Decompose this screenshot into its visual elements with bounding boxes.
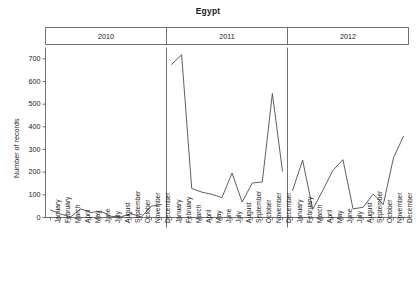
chart-axes [43, 28, 409, 228]
y-axis-title: Number of records [12, 118, 21, 178]
x-axis-tick-label: October [265, 199, 272, 222]
x-axis-tick-label: February [64, 196, 71, 222]
x-axis-tick-label: December [164, 192, 171, 222]
x-axis-tick-label: March [316, 204, 323, 222]
panel-strip-label-2011: 2011 [167, 32, 288, 41]
x-axis-tick-label: January [54, 199, 61, 222]
x-axis-tick-label: March [74, 204, 81, 222]
chart-data-lines [51, 55, 404, 217]
x-axis-tick-label: October [144, 199, 151, 222]
y-axis-tick-label: 500 [29, 99, 41, 108]
x-axis-tick-label: July [356, 211, 363, 223]
x-axis-tick-label: February [306, 196, 313, 222]
y-axis-tick-label: 700 [29, 54, 41, 63]
x-axis-tick-label: August [366, 202, 373, 223]
x-axis-tick-label: August [245, 202, 252, 223]
x-axis-tick-label: December [285, 192, 292, 222]
x-axis-tick-label: December [406, 192, 413, 222]
x-axis-tick-label: October [386, 199, 393, 222]
x-axis-tick-label: March [195, 204, 202, 222]
x-axis-tick-label: November [154, 192, 161, 222]
panel-strip-label-2012: 2012 [288, 32, 409, 41]
x-axis-tick-label: April [205, 209, 212, 222]
x-axis-tick-label: June [346, 208, 353, 222]
x-axis-tick-label: November [396, 192, 403, 222]
y-axis-tick-label: 600 [29, 77, 41, 86]
x-axis-tick-label: September [376, 190, 383, 222]
chart-figure: Egypt 0100200300400500600700Number of re… [0, 0, 416, 284]
x-axis-tick-label: January [296, 199, 303, 222]
x-axis-tick-label: April [326, 209, 333, 222]
x-axis-tick-label: September [255, 190, 262, 222]
x-axis-tick-label: September [134, 190, 141, 222]
x-axis-tick-label: February [185, 196, 192, 222]
y-axis-tick-label: 400 [29, 122, 41, 131]
x-axis-tick-label: June [225, 208, 232, 222]
x-axis-tick-label: May [336, 210, 343, 222]
x-axis-tick-label: January [175, 199, 182, 222]
x-axis-tick-label: April [84, 209, 91, 222]
x-axis-tick-label: July [235, 211, 242, 223]
y-axis-tick-label: 100 [29, 190, 41, 199]
x-axis-tick-label: November [275, 192, 282, 222]
x-axis-tick-label: July [114, 211, 121, 223]
x-axis-tick-label: August [124, 202, 131, 223]
y-axis-tick-label: 200 [29, 167, 41, 176]
y-axis-tick-label: 300 [29, 145, 41, 154]
x-axis-tick-label: May [94, 210, 101, 222]
x-axis-tick-label: June [104, 208, 111, 222]
x-axis-tick-label: May [215, 210, 222, 222]
chart-plot-area [0, 0, 416, 284]
y-axis-tick-label: 0 [37, 213, 41, 222]
panel-strip-label-2010: 2010 [46, 32, 167, 41]
